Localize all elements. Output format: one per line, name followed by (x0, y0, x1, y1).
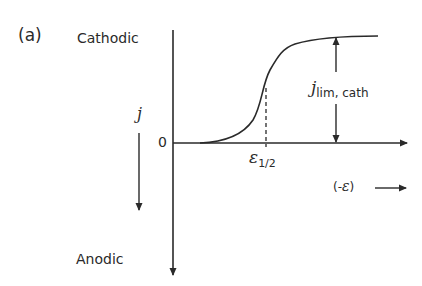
y-axis-symbol: j (137, 104, 142, 123)
diagram-canvas (0, 0, 422, 286)
x-axis-label: (-ε) (333, 178, 354, 194)
x-axis-label-suffix: ) (350, 180, 355, 194)
limiting-current-subscript: lim, cath (316, 86, 368, 100)
x-axis-label-prefix: (- (333, 180, 342, 194)
half-wave-symbol: ε (249, 147, 258, 167)
anodic-label: Anodic (76, 251, 124, 267)
limiting-current-label: jlim, cath (310, 77, 370, 100)
x-axis-label-symbol: ε (342, 178, 350, 194)
half-wave-potential-label: ε1/2 (249, 147, 276, 170)
cathodic-label: Cathodic (77, 30, 139, 46)
half-wave-subscript: 1/2 (258, 157, 276, 170)
origin-label: 0 (158, 134, 167, 150)
panel-label: (a) (18, 25, 42, 45)
